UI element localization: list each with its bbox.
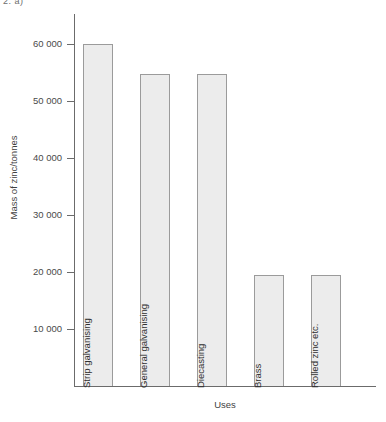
bar-label: General galvanising xyxy=(139,304,149,388)
bar xyxy=(197,74,227,386)
bar-label: Diecasting xyxy=(196,344,206,388)
bar-chart: 10 00020 00030 00040 00050 00060 000 Mas… xyxy=(0,0,386,422)
bars-group: Strip galvanisingGeneral galvanisingDiec… xyxy=(0,0,386,422)
bar-label: Brass xyxy=(253,364,263,388)
bar-label: Strip galvanising xyxy=(82,318,92,388)
chart-page: 2. a) 10 00020 00030 00040 00050 00060 0… xyxy=(0,0,386,422)
bar-label: Rolled zinc etc. xyxy=(310,324,320,388)
